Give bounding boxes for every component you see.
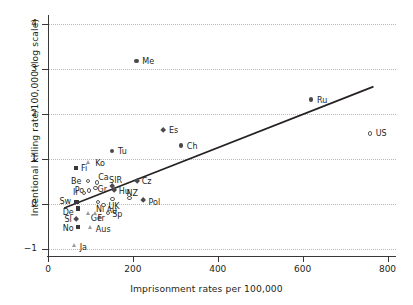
gridline <box>48 69 396 70</box>
marker-circle-fill <box>309 97 314 102</box>
point-label: Aus <box>96 225 111 234</box>
point-label: Ch <box>187 142 198 151</box>
point-label: Ko <box>95 159 105 168</box>
point-label: US <box>376 129 387 138</box>
point-label: Be <box>71 177 81 186</box>
marker-triangle-open <box>86 211 90 215</box>
point-label: Cz <box>142 177 152 186</box>
marker-square-fill <box>74 200 78 204</box>
y-tick <box>42 249 48 250</box>
x-tick-label: 800 <box>368 264 408 274</box>
point-label: SlR <box>109 176 122 185</box>
marker-diamond-fill <box>112 188 118 194</box>
x-tick <box>303 256 304 262</box>
x-axis-title: Imprisonment rates per 100,000 <box>0 283 413 294</box>
x-tick-label: 0 <box>28 264 68 274</box>
x-tick <box>388 256 389 262</box>
point-label: Pol <box>148 198 160 207</box>
marker-diamond-fill <box>140 197 146 203</box>
y-tick <box>42 114 48 115</box>
y-tick-label: 2 <box>7 108 37 118</box>
point-label: Me <box>142 57 154 66</box>
marker-diamond-fill <box>134 178 140 184</box>
marker-circle-open <box>86 179 90 183</box>
y-tick-label: 1 <box>7 153 37 163</box>
y-tick <box>42 159 48 160</box>
marker-circle-open <box>87 188 91 192</box>
x-tick <box>218 256 219 262</box>
point-label: Ir <box>73 188 79 197</box>
marker-diamond-fill <box>73 216 79 222</box>
point-label: Ca <box>98 173 109 182</box>
gridline <box>48 249 396 250</box>
marker-triangle-open <box>88 225 92 229</box>
marker-square-fill <box>74 166 78 170</box>
gridline <box>48 24 396 25</box>
marker-circle-open <box>101 203 105 207</box>
y-tick-label: −1 <box>7 243 37 253</box>
x-tick <box>133 256 134 262</box>
gridline <box>48 114 396 115</box>
marker-circle-fill <box>110 149 115 154</box>
marker-triangle-open <box>93 211 97 215</box>
scatter-chart-figure: Intentional killing rate/100,000 (log sc… <box>0 0 413 305</box>
y-tick-label: 0 <box>7 198 37 208</box>
marker-circle-open <box>110 197 114 201</box>
x-tick <box>48 256 49 262</box>
y-tick-label: 3 <box>7 63 37 73</box>
point-label: Ja <box>80 243 87 252</box>
point-label: Fr <box>98 214 105 223</box>
point-label: Sw <box>59 197 71 206</box>
y-tick-label: 4 <box>7 18 37 28</box>
trendline <box>0 0 413 305</box>
x-tick-label: 400 <box>198 264 238 274</box>
x-tick-label: 600 <box>283 264 323 274</box>
point-label: NZ <box>126 189 137 198</box>
marker-triangle-open <box>72 243 76 247</box>
y-tick <box>42 24 48 25</box>
point-label: Es <box>169 126 178 135</box>
x-tick-label: 200 <box>113 264 153 274</box>
point-label: No <box>63 224 74 233</box>
marker-circle-open <box>82 191 86 195</box>
marker-circle-fill <box>134 59 139 64</box>
marker-square-fill <box>76 225 80 229</box>
point-label: Tu <box>118 147 127 156</box>
marker-square-fill <box>76 206 80 210</box>
y-axis-line <box>48 15 49 258</box>
marker-circle-fill <box>179 143 184 148</box>
point-label: Ru <box>317 96 327 105</box>
marker-diamond-fill <box>160 127 166 133</box>
y-tick <box>42 69 48 70</box>
y-tick <box>42 204 48 205</box>
x-axis-line <box>47 256 396 257</box>
point-label: Sp <box>112 210 122 219</box>
marker-circle-open <box>368 131 372 135</box>
point-label: Fi <box>81 164 87 173</box>
point-label: Gr <box>98 185 108 194</box>
